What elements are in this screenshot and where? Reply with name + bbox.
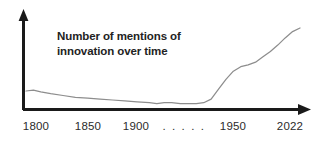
chart-figure: Number of mentions of innovation over ti…: [0, 0, 333, 146]
x-axis: [23, 104, 311, 115]
chart-title-line-1: Number of mentions of: [57, 29, 237, 44]
chart-title-line-2: innovation over time: [57, 44, 237, 59]
x-tick-label: 1800: [6, 120, 66, 132]
chart-title: Number of mentions of innovation over ti…: [57, 29, 237, 59]
y-axis: [19, 9, 29, 110]
x-tick-label: 1950: [203, 120, 263, 132]
y-axis-arrow-icon: [19, 9, 29, 21]
x-tick-label: 2022: [260, 120, 320, 132]
x-axis-arrow-icon: [298, 104, 311, 115]
